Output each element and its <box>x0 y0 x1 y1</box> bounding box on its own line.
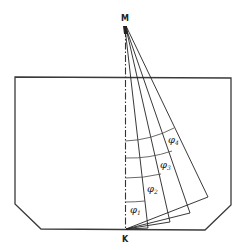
angle-label-4: φ4 <box>168 134 179 146</box>
angle-arc-1 <box>126 201 146 202</box>
point-label-k: K <box>122 235 129 244</box>
angle-arc-2 <box>126 174 162 178</box>
hull-outline <box>15 77 231 230</box>
pendulum-angle-diagram: φ1 φ2 φ3 φ4 M K <box>0 0 245 250</box>
angle-arc-3 <box>126 151 173 158</box>
point-label-m: M <box>121 14 129 23</box>
angle-label-1: φ1 <box>130 204 141 216</box>
ray-group-4 <box>126 28 208 229</box>
angle-label-2: φ2 <box>147 183 158 195</box>
angle-label-3: φ3 <box>160 159 171 171</box>
ray-group-2 <box>126 28 170 229</box>
ray-group-3 <box>126 28 190 229</box>
